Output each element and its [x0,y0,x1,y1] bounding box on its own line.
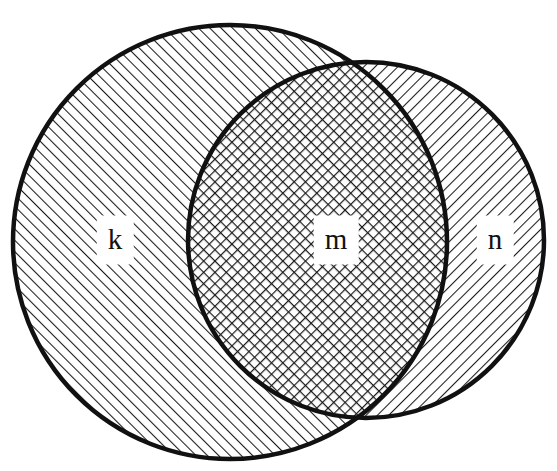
region-label-n: n [477,216,514,265]
venn-diagram: k m n [0,0,557,471]
venn-diagram-canvas [0,0,557,471]
region-label-k: k [97,216,134,265]
region-label-m: m [314,216,359,265]
